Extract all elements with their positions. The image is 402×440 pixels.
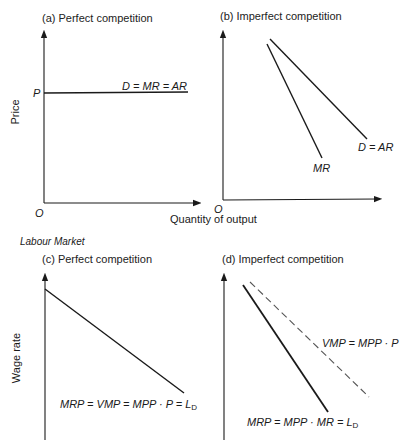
panel-b-demand-line bbox=[270, 39, 367, 139]
panel-b-title: (b) Imperfect competition bbox=[220, 10, 342, 22]
panel-d-mrp-line bbox=[243, 285, 328, 412]
panel-a-axes bbox=[44, 34, 197, 203]
panel-d-vmp-label: VMP = MPP · P bbox=[322, 337, 399, 349]
panel-b-mr-label: MR bbox=[313, 162, 330, 174]
panel-b-mr-line bbox=[267, 44, 322, 158]
panel-c-curve-label-text: MRP = VMP = MPP · P = L bbox=[60, 398, 191, 410]
panel-c-curve-label: MRP = VMP = MPP · P = LD bbox=[60, 398, 197, 414]
price-axis-label: Price bbox=[9, 95, 21, 129]
panel-b-axes bbox=[223, 34, 378, 200]
quantity-axis-label: Quantity of output bbox=[170, 213, 257, 225]
panel-a-curve-label: D = MR = AR bbox=[122, 80, 187, 92]
panel-a-demand-line bbox=[44, 92, 188, 93]
panel-d-title: (d) Imperfect competition bbox=[222, 253, 344, 265]
panel-c-demand-line bbox=[45, 289, 184, 393]
panel-d-mrp-label: MRP = MPP · MR = LD bbox=[247, 416, 358, 432]
price-tick-label: P bbox=[33, 87, 40, 99]
section-label-labour-market: Labour Market bbox=[20, 236, 84, 248]
panel-a-origin: O bbox=[35, 207, 44, 219]
panel-c-curve-label-sub: D bbox=[191, 403, 197, 412]
panel-c-title: (c) Perfect competition bbox=[42, 253, 152, 265]
panel-d-mrp-label-sub: D bbox=[353, 421, 359, 430]
panel-b-demand-label: D = AR bbox=[358, 141, 393, 153]
wage-rate-axis-label: Wage rate bbox=[10, 330, 22, 386]
panel-a-title: (a) Perfect competition bbox=[42, 12, 153, 24]
panel-d-mrp-label-text: MRP = MPP · MR = L bbox=[247, 416, 353, 428]
